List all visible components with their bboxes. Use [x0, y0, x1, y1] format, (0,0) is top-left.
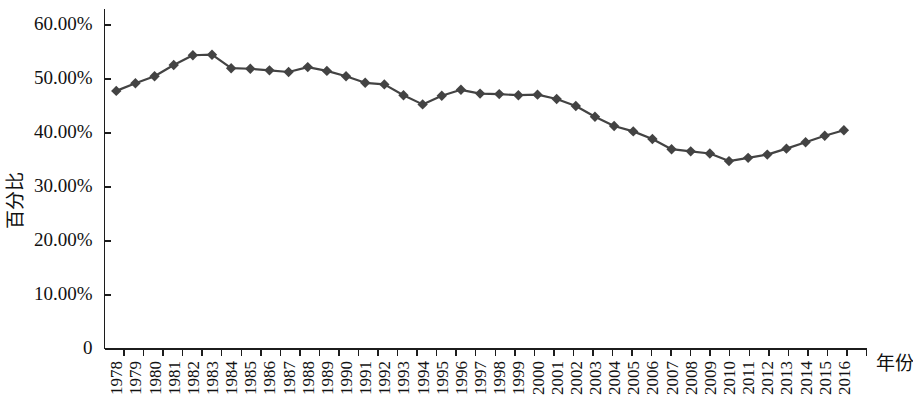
- y-axis-tick-label: 30.00%: [34, 175, 93, 196]
- x-axis-tick-label: 2014: [797, 361, 816, 396]
- x-axis-tick-label: 1998: [490, 361, 509, 395]
- x-axis-tick-label: 2005: [624, 361, 643, 395]
- data-point-marker: [130, 78, 140, 88]
- x-axis-tick-label: 1993: [394, 361, 413, 395]
- chart-screenshot: 60.00%50.00%40.00%30.00%20.00%10.00%0 19…: [0, 0, 913, 406]
- x-axis-tick-label: 2006: [643, 361, 662, 395]
- x-axis-tick-label: 2007: [663, 361, 682, 396]
- y-axis-tick-labels: 60.00%50.00%40.00%30.00%20.00%10.00%0: [34, 13, 93, 358]
- x-axis-tick-label: 2000: [529, 361, 548, 395]
- x-axis-tick-label: 1983: [203, 361, 222, 395]
- data-point-marker: [724, 156, 734, 166]
- data-point-marker: [590, 112, 600, 122]
- x-axis-tick-label: 1994: [414, 361, 433, 396]
- x-axis-tick-label: 1989: [318, 361, 337, 395]
- data-point-marker: [111, 86, 121, 96]
- x-axis-tick-label: 2004: [605, 361, 624, 396]
- data-point-marker: [513, 90, 523, 100]
- data-point-marker: [264, 65, 274, 75]
- series-markers: [111, 50, 849, 167]
- data-point-marker: [820, 131, 830, 141]
- x-axis-title: 年份: [876, 353, 913, 374]
- x-axis-tick-label: 2012: [758, 361, 777, 395]
- x-axis-tick-label: 1978: [107, 361, 126, 395]
- data-point-marker: [609, 121, 619, 131]
- x-axis-tick-label: 1992: [375, 361, 394, 395]
- x-axis-tick-label: 2001: [548, 361, 567, 395]
- x-axis-tick-label: 1997: [471, 361, 490, 396]
- y-axis-tick-label: 20.00%: [34, 229, 93, 250]
- x-axis-tick-label: 2013: [777, 361, 796, 395]
- x-axis-tick-label: 1985: [241, 361, 260, 395]
- x-axis-tick-label: 2002: [567, 361, 586, 395]
- data-point-marker: [379, 79, 389, 89]
- x-axis-tick-marks: [124, 349, 866, 356]
- x-axis-tick-label: 2015: [816, 361, 835, 395]
- x-axis-tick-labels: 1978197919801981198219831984198519861987…: [107, 361, 854, 396]
- data-point-marker: [475, 88, 485, 98]
- x-axis-tick-label: 1987: [280, 361, 299, 396]
- x-axis-tick-label: 2011: [739, 361, 758, 394]
- data-point-marker: [322, 66, 332, 76]
- data-point-marker: [686, 146, 696, 156]
- x-axis-tick-label: 2016: [835, 361, 854, 395]
- data-point-marker: [762, 149, 772, 159]
- data-point-marker: [647, 134, 657, 144]
- y-axis-tick-label: 40.00%: [34, 121, 93, 142]
- data-point-marker: [628, 126, 638, 136]
- data-point-marker: [456, 85, 466, 95]
- data-point-marker: [283, 67, 293, 77]
- x-axis-tick-label: 1980: [146, 361, 165, 395]
- data-point-marker: [188, 50, 198, 60]
- data-point-marker: [341, 71, 351, 81]
- x-axis-tick-label: 1981: [165, 361, 184, 395]
- x-axis-tick-label: 2008: [682, 361, 701, 395]
- data-point-marker: [169, 60, 179, 70]
- x-axis-tick-label: 1996: [452, 361, 471, 395]
- y-axis-tick-label: 60.00%: [34, 13, 93, 34]
- data-point-marker: [551, 94, 561, 104]
- x-axis-tick-label: 2003: [586, 361, 605, 395]
- x-axis-tick-label: 1982: [184, 361, 203, 395]
- data-point-marker: [360, 78, 370, 88]
- x-axis-tick-label: 2009: [701, 361, 720, 395]
- y-axis-tick-label: 10.00%: [34, 283, 93, 304]
- x-axis-tick-label: 2010: [720, 361, 739, 395]
- data-point-marker: [781, 143, 791, 153]
- data-point-marker: [437, 91, 447, 101]
- data-point-marker: [398, 90, 408, 100]
- data-point-marker: [149, 71, 159, 81]
- series-line-path: [116, 55, 844, 161]
- y-axis-tick-label: 50.00%: [34, 67, 93, 88]
- x-axis-tick-label: 1984: [222, 361, 241, 396]
- x-axis-tick-label: 1988: [299, 361, 318, 395]
- x-axis-tick-label: 1991: [356, 361, 375, 395]
- data-point-marker: [494, 89, 504, 99]
- x-axis-tick-label: 1979: [126, 361, 145, 395]
- y-axis-tick-marks: [105, 25, 111, 295]
- data-point-marker: [743, 153, 753, 163]
- y-axis-title: 百分比: [5, 172, 26, 229]
- data-point-marker: [666, 144, 676, 154]
- data-point-marker: [532, 89, 542, 99]
- data-point-marker: [245, 64, 255, 74]
- y-axis-tick-label: 0: [83, 337, 93, 358]
- x-axis-tick-label: 1990: [337, 361, 356, 395]
- data-point-marker: [417, 99, 427, 109]
- x-axis-tick-label: 1995: [433, 361, 452, 395]
- data-point-marker: [571, 101, 581, 111]
- data-point-marker: [839, 125, 849, 135]
- data-point-marker: [303, 62, 313, 72]
- data-point-marker: [705, 148, 715, 158]
- line-chart: 60.00%50.00%40.00%30.00%20.00%10.00%0 19…: [0, 0, 913, 406]
- x-axis-tick-label: 1999: [509, 361, 528, 395]
- data-point-marker: [800, 137, 810, 147]
- x-axis-tick-label: 1986: [260, 361, 279, 395]
